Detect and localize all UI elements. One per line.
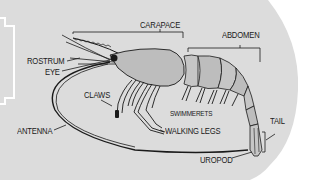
label-walking-legs: WALKING LEGS bbox=[165, 126, 221, 136]
label-uropod: UROPOD bbox=[200, 155, 233, 165]
label-carapace: CARAPACE bbox=[140, 20, 180, 30]
label-tail: TAIL bbox=[270, 116, 285, 126]
label-claws: CLAWS bbox=[84, 90, 110, 100]
abdomen-segment-2 bbox=[198, 56, 222, 89]
eye bbox=[111, 55, 118, 62]
abdomen-segment-1 bbox=[184, 55, 198, 87]
label-swimmerets: SWIMMERETS bbox=[170, 109, 212, 118]
label-antenna: ANTENNA bbox=[17, 126, 52, 136]
label-abdomen: ABDOMEN bbox=[222, 30, 259, 40]
label-rostrum: ROSTRUM bbox=[27, 56, 64, 66]
shrimp-diagram: CARAPACE ABDOMEN ROSTRUM EYE CLAWS SWIMM… bbox=[0, 0, 310, 180]
label-eye: EYE bbox=[45, 67, 60, 77]
